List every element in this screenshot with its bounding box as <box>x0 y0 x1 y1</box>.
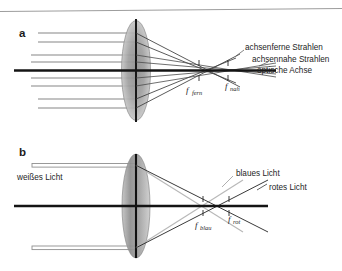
optics-figure: a <box>0 0 342 271</box>
panel-b-letter: b <box>19 146 26 158</box>
label-paraxial-rays: achsennahe Strahlen <box>252 55 330 64</box>
incoming-beam-lower <box>32 246 136 250</box>
focus-near-subscript: nah <box>230 85 240 92</box>
label-white-light: weißes Licht <box>16 173 63 182</box>
incoming-beam-upper <box>32 164 136 168</box>
label-red-light: rotes Licht <box>269 183 307 192</box>
panel-a-letter: a <box>19 27 26 39</box>
focus-blue-subscript: blau <box>200 224 211 231</box>
focus-far-subscript: fern <box>192 89 202 96</box>
focus-red-subscript: rot <box>233 218 240 225</box>
label-optical-axis: optische Achse <box>257 66 313 75</box>
label-blue-light: blaues Licht <box>236 169 280 178</box>
label-marginal-rays: achsenferne Strahlen <box>245 43 323 52</box>
